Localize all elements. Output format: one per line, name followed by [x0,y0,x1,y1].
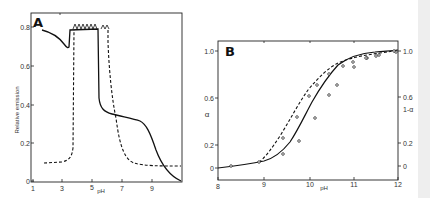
panel-a-xtick: 7 [120,185,124,192]
panel-b-dashed-curve [259,50,398,162]
panel-b-ytick-left: 1.0 [204,48,214,55]
panel-a-xtick: 5 [90,184,94,191]
panel-b-xtick: 12 [394,181,402,188]
panel-b-ytick-left: 0.2 [204,142,214,149]
panel-b-xtick: 9 [262,181,266,188]
panel-b-ylabel-left: α [205,110,210,119]
panel-b-ytick-right: 1.0 [403,48,413,55]
panel-a-ytick: 0.6 [20,63,30,70]
panel-b-ytick-right: 0.6 [403,94,413,101]
panel-a-ytick: 0.8 [20,24,30,31]
panel-b-xlabel: pH [320,185,328,191]
panel-a-zigzag-break-2 [101,25,109,29]
panel-b-ytick-left: 0 [210,165,214,172]
panel-a-xtick: 9 [150,185,154,192]
panel-a-ytick: 0 [26,178,30,185]
panel-a-ytick: 0.2 [20,140,30,147]
panel-b-xtick: 8 [216,183,220,190]
panel-b-xtick: 11 [350,181,357,188]
panel-a-xtick: 1 [31,185,35,192]
figure: 0 0.2 0.4 0.6 0.8 1 3 5 7 9 pH Relative … [0,0,430,198]
panel-b: 0 0.2 0.6 1.0 α 0 0.2 0.6 1.0 1-α 8 9 [204,41,413,191]
panel-b-label: B [225,44,235,59]
panel-b-solid-curve [218,50,398,168]
panel-a-yticks: 0 0.2 0.4 0.6 0.8 [20,24,34,185]
panel-a-xlabel: pH [97,188,105,194]
panel-a-zigzag-break [73,24,97,29]
panel-b-ytick-right: 0 [403,163,407,170]
panel-b-ylabel-right: 1-α [403,106,413,113]
panel-a-ytick: 0.4 [20,102,30,109]
panel-a-dashed-curve [44,30,181,166]
panel-a-xtick: 3 [60,185,64,192]
panel-a-ylabel: Relative emission [14,86,20,133]
panel-b-solid-markers [230,51,398,168]
panel-a-solid-curve [42,29,181,181]
panel-b-xtick: 10 [306,181,314,188]
panel-a-label: A [33,15,43,30]
panel-a: 0 0.2 0.4 0.6 0.8 1 3 5 7 9 pH Relative … [14,13,182,194]
panel-b-dashed-markers [282,50,396,140]
panel-a-xticks: 1 3 5 7 9 [31,179,154,192]
panel-b-ytick-left: 0.6 [204,95,214,102]
panel-b-xticks: 8 9 10 11 12 [216,177,402,190]
panel-b-ytick-right: 0.2 [403,140,413,147]
